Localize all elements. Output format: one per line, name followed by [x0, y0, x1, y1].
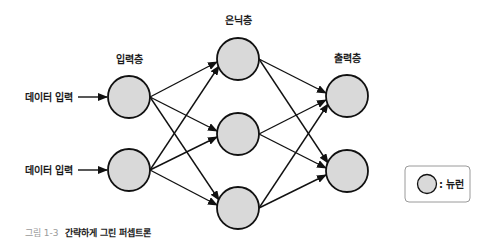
hidden-neuron-3	[217, 187, 259, 229]
data-input-label-1: 데이터 입력	[25, 91, 73, 103]
input-neuron-2	[108, 149, 150, 191]
input-layer-label: 입력층	[116, 53, 143, 65]
input-to-hidden-connections	[150, 62, 219, 205]
legend-label: : 뉴런	[439, 178, 464, 190]
hidden-to-output-connections	[259, 59, 328, 208]
figure-caption: 그림 1-3간략하게 그린 퍼셉트론	[25, 226, 151, 239]
legend: : 뉴런	[405, 166, 470, 202]
output-neuron-1	[326, 75, 368, 117]
hidden-neuron-2	[217, 113, 259, 155]
input-neuron-1	[108, 76, 150, 118]
figure-title: 간략하게 그린 퍼셉트론	[65, 228, 151, 238]
legend-neuron-icon	[418, 175, 437, 194]
perceptron-diagram: 입력층 은닉층 출력층 데이터 입력 데이터 입력 : 뉴런	[0, 0, 492, 248]
output-neuron-2	[326, 150, 368, 192]
output-layer-label: 출력층	[334, 52, 361, 64]
figure-number: 그림 1-3	[25, 228, 59, 238]
data-input-label-2: 데이터 입력	[25, 164, 73, 176]
hidden-layer-label: 은닉층	[225, 14, 252, 26]
hidden-neuron-1	[217, 38, 259, 80]
